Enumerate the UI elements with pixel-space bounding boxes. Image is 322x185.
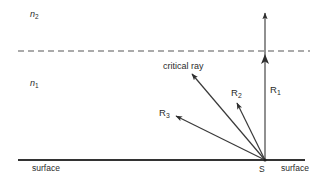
label-surface-right: surface xyxy=(281,164,309,173)
label-ray-r3: R3 xyxy=(159,108,170,118)
label-surface-left: surface xyxy=(32,164,60,173)
label-critical-ray: critical ray xyxy=(163,62,204,71)
source-point-marker xyxy=(263,158,266,161)
label-source-point-s: S xyxy=(259,165,265,174)
critical-ray-line xyxy=(192,74,265,160)
ray-r3-line xyxy=(176,116,265,160)
label-ray-r1: R1 xyxy=(270,85,281,95)
label-ray-r2: R2 xyxy=(231,88,242,98)
label-refractive-index-n2: n2 xyxy=(30,10,39,19)
label-refractive-index-n1: n1 xyxy=(30,79,39,88)
